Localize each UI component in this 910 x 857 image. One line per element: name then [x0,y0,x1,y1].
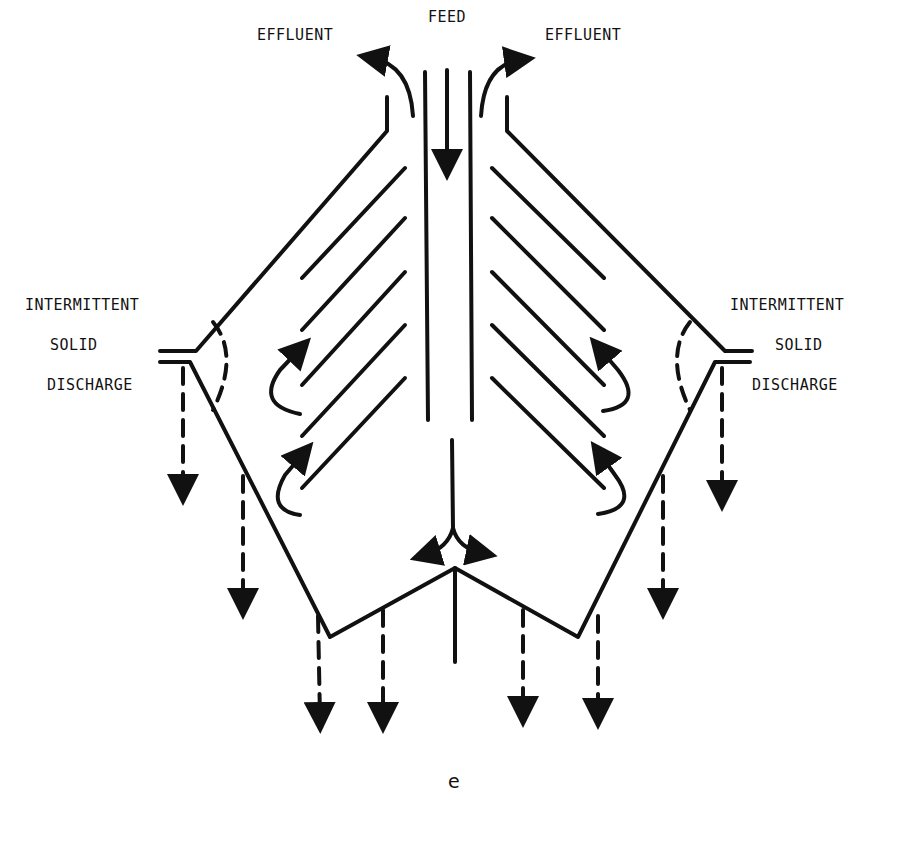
right-discharge-label-line3: DISCHARGE [752,376,838,394]
feed-pipe-left-wall [425,72,428,420]
split-arrow-left [425,528,453,555]
recirc-arrow-left-upper [271,349,300,414]
right-discharge-label-line1: INTERMITTENT [730,296,844,314]
left-discharge-label-line1: INTERMITTENT [25,296,139,314]
effluent-label-right: EFFLUENT [545,26,621,44]
right-discharge-label-line2: SOLID [775,336,823,354]
recirc-arrow-right-upper [600,349,629,411]
feed-pipe-right-wall [470,72,472,420]
effluent-label-left: EFFLUENT [257,26,333,44]
valve-arc-left [213,322,227,410]
left-discharge-label-line3: DISCHARGE [47,376,133,394]
valve-arc-right [677,322,690,410]
recirc-arrow-left-lower [278,454,303,515]
effluent-arrow-left [372,58,413,116]
separator-diagram [0,0,910,857]
left-discharge-label-line2: SOLID [50,336,98,354]
split-arrow-right [453,528,482,553]
feed-label: FEED [428,8,466,26]
effluent-arrow-right [481,60,520,116]
bowl-right-upper [507,97,752,351]
inner-stem [452,440,453,528]
figure-caption: e [448,770,460,792]
